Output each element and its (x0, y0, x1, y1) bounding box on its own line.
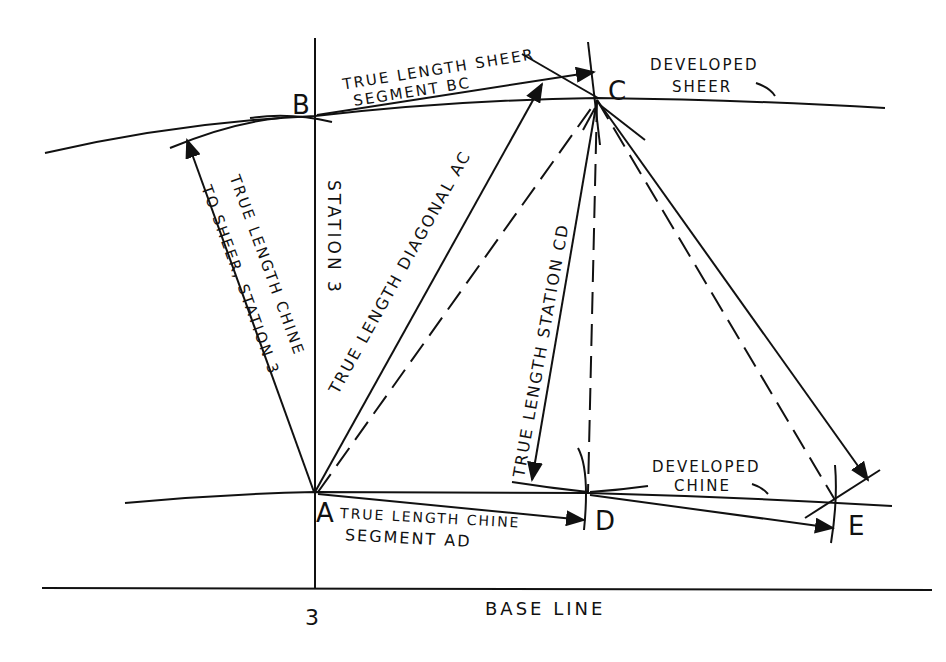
station-number-label: 3 (305, 605, 319, 630)
developed-sheer-label-2: SHEER (672, 78, 732, 96)
developed-chine-label-2: CHINE (674, 477, 731, 495)
point-c-label: C (608, 76, 626, 106)
station-cd-label: TRUE LENGTH STATION CD (509, 222, 573, 480)
point-a-label: A (316, 498, 334, 528)
ad-label-line2: SEGMENT AD (344, 525, 471, 551)
base-line-label: BASE LINE (485, 598, 605, 619)
sheer-curve (45, 98, 885, 153)
arrow-diagonal-ac (315, 84, 542, 492)
point-b-label: B (292, 90, 310, 120)
chine-curve (125, 492, 892, 506)
diagonal-ac-label: TRUE LENGTH DIAGONAL AC (324, 147, 474, 398)
station-3-vertical-label: STATION 3 (324, 180, 344, 295)
base-line (42, 588, 932, 590)
point-e-label: E (848, 511, 864, 541)
point-d-label: D (595, 506, 615, 536)
developed-chine-label-1: DEVELOPED (652, 458, 760, 476)
developed-hull-diagram: B C A D E TRUE LENGTH SHEER SEGMENT BC D… (0, 0, 946, 662)
developed-sheer-label-1: DEVELOPED (650, 56, 758, 74)
